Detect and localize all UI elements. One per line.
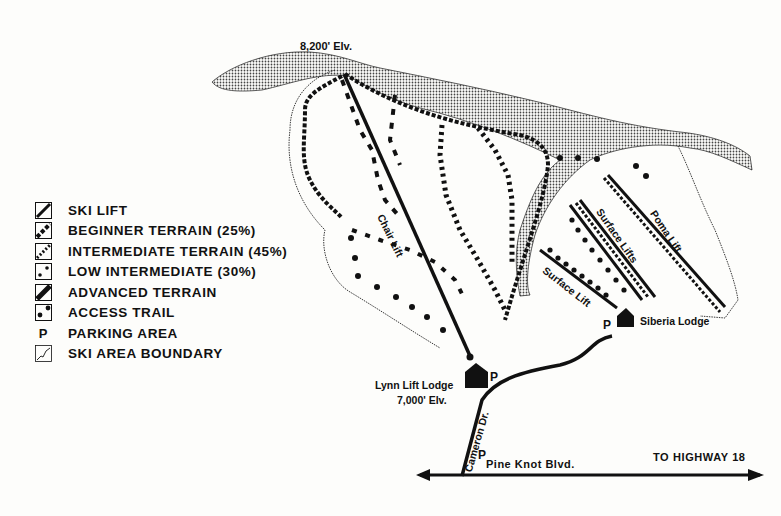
parking-marker-siberia: P	[603, 318, 611, 332]
advanced-terrain-icon	[34, 284, 52, 301]
legend-item-advanced: ADVANCED TERRAIN	[34, 282, 287, 303]
map-legend: SKI LIFT BEGINNER TERRAIN (25%) INTERMED…	[34, 200, 287, 364]
siberia-lodge-icon	[617, 308, 634, 327]
legend-item-intermediate: INTERMEDIATE TERRAIN (45%)	[34, 241, 287, 262]
beginner-trail-3	[352, 230, 465, 300]
ski-area-boundary-east	[678, 146, 738, 318]
lynn-lift-lodge-label: Lynn Lift Lodge	[375, 379, 453, 391]
arrow-west-icon	[416, 469, 430, 481]
legend-item-beginner: BEGINNER TERRAIN (25%)	[34, 221, 287, 242]
legend-item-access-trail: ACCESS TRAIL	[34, 303, 287, 324]
legend-item-parking: P PARKING AREA	[34, 323, 287, 344]
legend-item-low-intermediate: LOW INTERMEDIATE (30%)	[34, 262, 287, 283]
arrow-east-icon	[748, 469, 764, 481]
access-trail-perimeter	[304, 76, 342, 218]
pine-knot-blvd-label: Pine Knot Blvd.	[486, 458, 575, 470]
legend-item-ski-lift: SKI LIFT	[34, 200, 287, 221]
beginner-terrain-icon	[34, 222, 52, 239]
ski-lift-icon	[34, 202, 52, 219]
parking-icon: P	[34, 325, 52, 342]
lynn-lift-lodge-icon	[465, 363, 488, 388]
to-highway-18-label: TO HIGHWAY 18	[653, 451, 746, 463]
ski-area-map: 8,200' Elv. Chair Lift Surface Lifts Sur…	[0, 0, 781, 516]
ridge-top	[212, 52, 752, 296]
base-elevation-label: 7,000' Elv.	[397, 394, 447, 406]
access-trail-icon	[34, 304, 52, 321]
beginner-trail-2	[390, 95, 400, 165]
parking-marker-lynn: P	[490, 370, 498, 384]
legend-item-boundary: SKI AREA BOUNDARY	[34, 344, 287, 365]
summit-elevation-label: 8,200' Elv.	[300, 40, 352, 52]
intermediate-terrain-icon	[34, 243, 52, 260]
low-intermediate-icon	[34, 263, 52, 280]
intermediate-trail-2	[478, 128, 512, 265]
siberia-lodge-label: Siberia Lodge	[640, 315, 709, 327]
boundary-icon	[34, 345, 52, 362]
